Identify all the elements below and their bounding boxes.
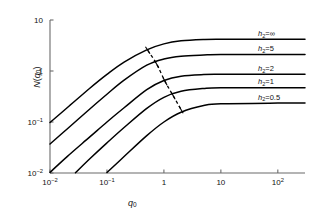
series-label: h2=1: [258, 77, 274, 87]
y-axis-title-q: q: [32, 73, 42, 78]
x-axis-title: q0: [128, 198, 137, 208]
y-axis-tick-label: 10−2: [27, 168, 43, 178]
y-axis-title: N(q0): [32, 42, 42, 112]
curve-group: [50, 39, 305, 173]
y-axis-title-sub: 0: [35, 70, 42, 74]
series-label: h2=5: [258, 44, 274, 54]
series-label: h2=∞: [258, 29, 275, 39]
x-axis-tick-label: 10−2: [42, 177, 58, 187]
series-curve: [107, 103, 305, 173]
series-label: h2=2: [258, 64, 274, 74]
x-axis-tick-label: 10: [216, 178, 225, 187]
y-axis-title-paren-close: ): [32, 67, 42, 70]
y-axis-tick-label: 10−1: [27, 117, 43, 127]
x-axis-tick-label: 10−1: [99, 177, 115, 187]
y-axis-tick-label: 10: [34, 16, 43, 25]
x-axis-tick-label: 102: [272, 177, 284, 187]
log-log-plot: 10−210−111010210−210−1110 h2=∞h2=5h2=2h2…: [0, 0, 320, 222]
series-label: h2=0.5: [258, 93, 280, 103]
y-axis-title-n: N: [32, 81, 42, 88]
figure-container: 10−210−111010210−210−1110 h2=∞h2=5h2=2h2…: [0, 0, 320, 222]
x-axis-title-sub: 0: [133, 201, 137, 208]
x-axis-tick-label: 1: [162, 178, 167, 187]
y-axis-title-paren-open: (: [32, 78, 42, 81]
